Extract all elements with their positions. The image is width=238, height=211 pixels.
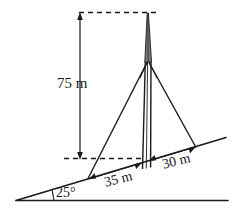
base-left-arrow-end [135, 163, 143, 169]
figure-canvas: 75 m 35 m 30 m 25° [0, 0, 238, 211]
height-arrow-up [77, 12, 83, 20]
slope-angle-label: 25° [56, 186, 76, 200]
tower-spread-right [149, 62, 157, 78]
tower-spread-left [140, 62, 148, 78]
guy-wire-left [88, 63, 147, 179]
angle-arc [52, 190, 54, 201]
base-right-arrow-start [149, 155, 157, 161]
height-label: 75 m [57, 76, 87, 91]
tower-leg-left [143, 62, 146, 169]
height-arrow-down [77, 152, 83, 160]
tower-inner-line [146, 62, 147, 169]
